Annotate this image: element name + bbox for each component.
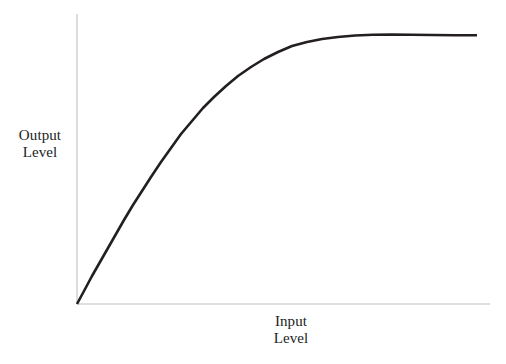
x-axis-label-line1: Input <box>247 313 335 330</box>
y-axis-label-line1: Output <box>6 127 74 144</box>
x-axis-label-line2: Level <box>247 330 335 347</box>
y-axis-label: Output Level <box>6 127 74 161</box>
x-axis-label: Input Level <box>247 313 335 347</box>
chart-figure: Output Level Input Level <box>0 0 506 364</box>
transfer-curve-plot <box>0 0 506 364</box>
y-axis-label-line2: Level <box>6 144 74 161</box>
data-series-transfer-curve <box>77 35 477 305</box>
